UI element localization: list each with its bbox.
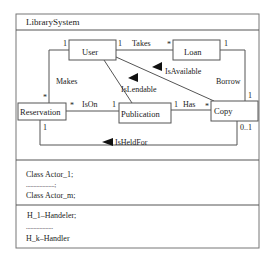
class-loan[interactable]: Loan	[173, 40, 220, 60]
class-publication-name: Publication	[121, 109, 160, 119]
borrow-mult-loan: 1	[224, 39, 228, 48]
actor-first: Class Actor_1;	[26, 170, 73, 179]
is-lendable-label: IsLendable	[121, 85, 157, 94]
takes-mult-user: 1	[118, 39, 122, 48]
makes-label: Makes	[56, 77, 77, 86]
takes-mult-loan: *	[167, 40, 171, 49]
takes-label: Takes	[132, 39, 151, 48]
class-loan-name: Loan	[184, 47, 202, 57]
class-copy-name: Copy	[214, 106, 233, 116]
makes-mult-reservation: *	[43, 93, 47, 102]
is-held-for-mult-copy: 0..1	[240, 123, 252, 132]
actor-ellipsis: ...................;	[26, 182, 57, 188]
class-user-name: User	[82, 47, 98, 57]
class-publication[interactable]: Publication	[119, 103, 171, 123]
handler-ellipsis: ..................	[26, 224, 54, 230]
handler-first: H_1–Handeler;	[27, 211, 76, 220]
uml-class-diagram: LibrarySystem User Loan Reservation Publ…	[0, 0, 273, 263]
borrow-label: Borrow	[216, 77, 241, 86]
borrow-mult-copy: 1	[248, 91, 252, 100]
has-label: Has	[183, 100, 195, 109]
class-reservation[interactable]: Reservation	[18, 103, 66, 120]
class-reservation-name: Reservation	[20, 107, 61, 117]
is-on-mult-reservation: *	[70, 101, 74, 110]
package-title: LibrarySystem	[26, 17, 80, 27]
is-on-mult-publication: 1	[112, 100, 116, 109]
is-available-label: IsAvailable	[165, 67, 202, 76]
has-mult-copy: *	[205, 102, 209, 111]
is-held-for-mult-reservation: 1	[43, 123, 47, 132]
actor-last: Class Actor_m;	[26, 191, 76, 200]
handler-last: H_k–Handler	[26, 234, 70, 243]
is-held-for-label: IsHeldFor	[115, 138, 148, 147]
class-user[interactable]: User	[69, 40, 116, 60]
class-copy[interactable]: Copy	[211, 101, 258, 121]
makes-mult-user: 1	[63, 39, 67, 48]
has-mult-publication: 1	[174, 100, 178, 109]
is-on-label: IsOn	[82, 100, 98, 109]
